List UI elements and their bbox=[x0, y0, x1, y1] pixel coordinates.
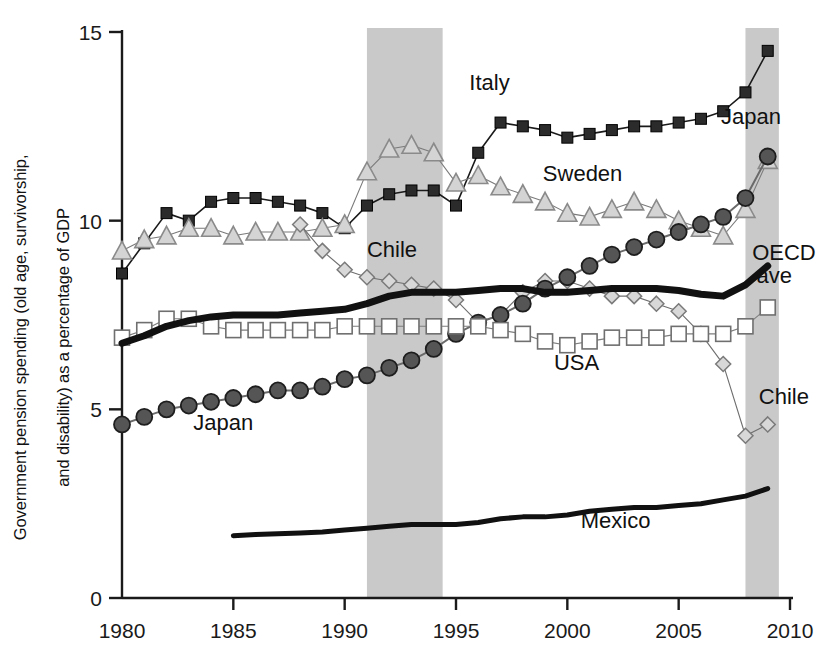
marker-square bbox=[562, 132, 573, 143]
x-tick-label-1985: 1985 bbox=[210, 619, 257, 642]
marker-square bbox=[272, 196, 283, 207]
marker-square bbox=[762, 45, 773, 56]
marker-circle bbox=[359, 367, 375, 383]
marker-circle bbox=[559, 269, 575, 285]
marker-square bbox=[738, 319, 753, 334]
marker-square bbox=[493, 323, 508, 338]
marker-circle bbox=[203, 394, 219, 410]
marker-circle bbox=[715, 209, 731, 225]
annotation-japan-2: Japan bbox=[721, 104, 781, 129]
x-tick-label-1995: 1995 bbox=[433, 619, 480, 642]
marker-square bbox=[538, 334, 553, 349]
marker-square bbox=[270, 323, 285, 338]
marker-square bbox=[629, 121, 640, 132]
marker-triangle bbox=[714, 226, 733, 244]
marker-square bbox=[382, 319, 397, 334]
annotation-oecd-3: OECD bbox=[752, 240, 816, 265]
y-tick-label-15: 15 bbox=[79, 21, 102, 44]
marker-circle bbox=[693, 216, 709, 232]
marker-square bbox=[471, 319, 486, 334]
x-tick-label-2005: 2005 bbox=[655, 619, 702, 642]
y-axis-title-line1: Government pension spending (old age, su… bbox=[9, 47, 31, 647]
marker-triangle bbox=[513, 185, 532, 203]
marker-square bbox=[293, 323, 308, 338]
marker-triangle bbox=[625, 192, 644, 210]
marker-square bbox=[540, 125, 551, 136]
marker-square bbox=[515, 326, 530, 341]
x-tick-label-2000: 2000 bbox=[544, 619, 591, 642]
marker-square bbox=[337, 319, 352, 334]
marker-circle bbox=[493, 307, 509, 323]
plot-canvas: 0510151980198519901995200020052010ItalyS… bbox=[0, 0, 831, 661]
marker-circle bbox=[426, 341, 442, 357]
marker-square bbox=[716, 326, 731, 341]
series-mexico bbox=[233, 489, 767, 536]
marker-square bbox=[627, 330, 642, 345]
annotation-sweden-1: Sweden bbox=[543, 161, 623, 186]
marker-square bbox=[604, 330, 619, 345]
marker-square bbox=[404, 319, 419, 334]
x-tick-label-1980: 1980 bbox=[99, 619, 146, 642]
marker-triangle bbox=[268, 222, 287, 240]
marker-square bbox=[428, 185, 439, 196]
annotation-usa-7: USA bbox=[554, 350, 600, 375]
annotation-italy-0: Italy bbox=[469, 70, 509, 95]
marker-square bbox=[361, 200, 372, 211]
marker-circle bbox=[604, 247, 620, 263]
marker-square bbox=[315, 323, 330, 338]
marker-square bbox=[228, 193, 239, 204]
marker-square bbox=[117, 268, 128, 279]
marker-square bbox=[295, 200, 306, 211]
marker-circle bbox=[515, 296, 531, 312]
marker-circle bbox=[582, 258, 598, 274]
marker-circle bbox=[270, 382, 286, 398]
marker-square bbox=[760, 300, 775, 315]
marker-circle bbox=[114, 416, 130, 432]
series-line bbox=[122, 51, 768, 274]
marker-circle bbox=[248, 386, 264, 402]
marker-triangle bbox=[157, 226, 176, 244]
marker-square bbox=[359, 319, 374, 334]
marker-circle bbox=[760, 149, 776, 165]
y-axis-title-line2: and disability) as a percentage of GDP bbox=[53, 47, 75, 647]
marker-square bbox=[606, 125, 617, 136]
marker-circle bbox=[159, 401, 175, 417]
marker-square bbox=[671, 326, 686, 341]
marker-diamond bbox=[337, 262, 352, 277]
pension-spending-chart: Government pension spending (old age, su… bbox=[0, 0, 831, 661]
y-axis-title: Government pension spending (old age, su… bbox=[0, 47, 96, 647]
marker-triangle bbox=[202, 219, 221, 237]
marker-circle bbox=[381, 360, 397, 376]
marker-square bbox=[449, 319, 464, 334]
marker-triangle bbox=[558, 204, 577, 222]
marker-triangle bbox=[179, 219, 198, 237]
marker-square bbox=[740, 87, 751, 98]
marker-triangle bbox=[536, 192, 555, 210]
annotation-chile-6: Chile bbox=[759, 384, 809, 409]
marker-circle bbox=[292, 382, 308, 398]
marker-circle bbox=[737, 190, 753, 206]
annotation-mexico-9: Mexico bbox=[581, 508, 651, 533]
marker-square bbox=[384, 189, 395, 200]
series-italy bbox=[117, 45, 774, 279]
marker-square bbox=[495, 117, 506, 128]
marker-diamond bbox=[649, 296, 664, 311]
annotation-chile-5: Chile bbox=[367, 237, 417, 262]
marker-circle bbox=[671, 224, 687, 240]
marker-circle bbox=[626, 239, 642, 255]
marker-triangle bbox=[447, 173, 466, 191]
x-tick-label-2010: 2010 bbox=[767, 619, 814, 642]
marker-square bbox=[695, 113, 706, 124]
marker-circle bbox=[314, 379, 330, 395]
marker-triangle bbox=[602, 200, 621, 218]
marker-square bbox=[161, 208, 172, 219]
marker-square bbox=[517, 121, 528, 132]
annotation-japan-8: Japan bbox=[193, 410, 253, 435]
marker-square bbox=[250, 193, 261, 204]
marker-diamond bbox=[315, 243, 330, 258]
x-tick-label-1990: 1990 bbox=[321, 619, 368, 642]
marker-square bbox=[248, 323, 263, 338]
marker-square bbox=[406, 185, 417, 196]
marker-diamond bbox=[293, 217, 308, 232]
marker-circle bbox=[403, 352, 419, 368]
